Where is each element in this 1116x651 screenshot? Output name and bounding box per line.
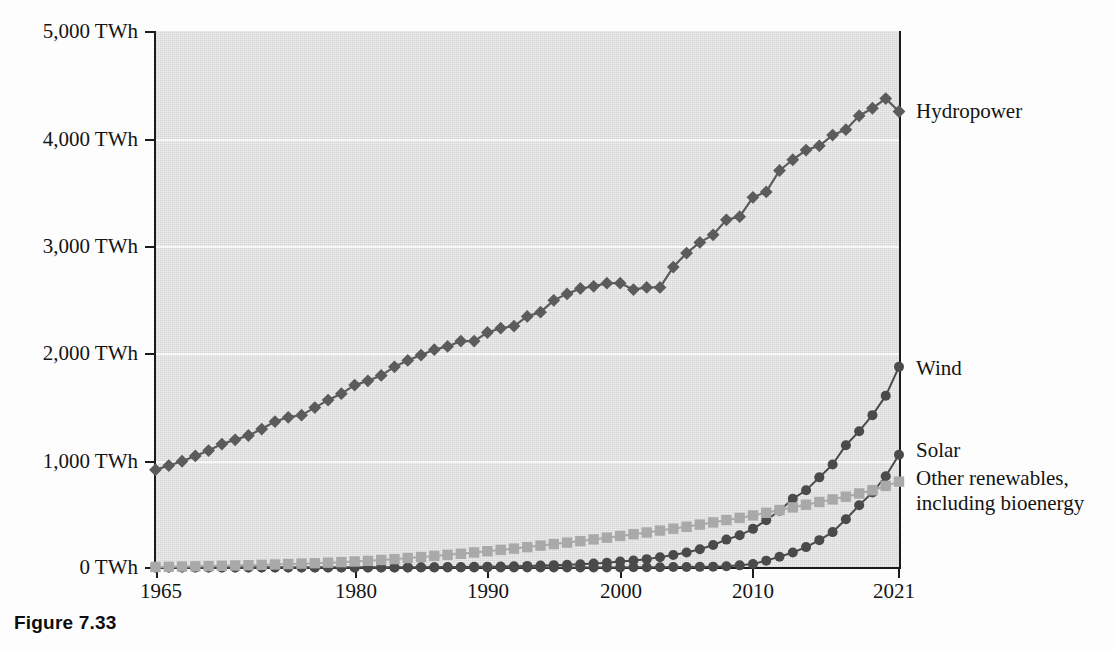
x-tick-label-2010: 2010 xyxy=(732,580,774,602)
figure-7-33: 5,000 TWh 4,000 TWh 3,000 TWh 2,000 TWh … xyxy=(0,0,1116,651)
plot-right-spine xyxy=(899,31,901,569)
x-tick-label-1980: 1980 xyxy=(335,580,377,602)
y-tick-label-5000: 5,000 TWh xyxy=(0,21,138,42)
y-tick-0 xyxy=(145,567,155,569)
y-tick-label-3000: 3,000 TWh xyxy=(0,236,138,257)
y-tick-label-0: 0 TWh xyxy=(0,557,138,578)
x-tick-1980 xyxy=(355,568,357,578)
x-tick-label-1965: 1965 xyxy=(140,580,182,602)
gridline-1000 xyxy=(155,461,900,463)
series-label-wind: Wind xyxy=(916,356,962,380)
y-tick-label-4000: 4,000 TWh xyxy=(0,129,138,150)
gridline-2000 xyxy=(155,353,900,355)
series-label-solar: Solar xyxy=(916,438,960,462)
x-tick-2010 xyxy=(752,568,754,578)
x-tick-label-1990: 1990 xyxy=(467,580,509,602)
y-tick-1000 xyxy=(145,461,155,463)
series-label-other-renewables: Other renewables, including bioenergy xyxy=(916,466,1116,516)
plot-area xyxy=(155,31,900,568)
x-tick-1965 xyxy=(156,568,158,578)
x-tick-1990 xyxy=(487,568,489,578)
y-tick-label-1000: 1,000 TWh xyxy=(0,451,138,472)
y-tick-label-2000: 2,000 TWh xyxy=(0,343,138,364)
figure-caption: Figure 7.33 xyxy=(14,612,117,634)
x-tick-2000 xyxy=(620,568,622,578)
y-tick-3000 xyxy=(145,246,155,248)
y-tick-2000 xyxy=(145,353,155,355)
x-axis-line xyxy=(154,567,901,569)
x-tick-2021 xyxy=(898,568,900,578)
y-tick-5000 xyxy=(145,31,155,33)
gridline-3000 xyxy=(155,246,900,248)
x-tick-label-2000: 2000 xyxy=(600,580,642,602)
series-label-hydropower: Hydropower xyxy=(916,99,1022,123)
gridline-4000 xyxy=(155,139,900,141)
y-tick-4000 xyxy=(145,139,155,141)
x-tick-label-2021: 2021 xyxy=(873,580,915,602)
y-axis-line xyxy=(154,31,156,569)
